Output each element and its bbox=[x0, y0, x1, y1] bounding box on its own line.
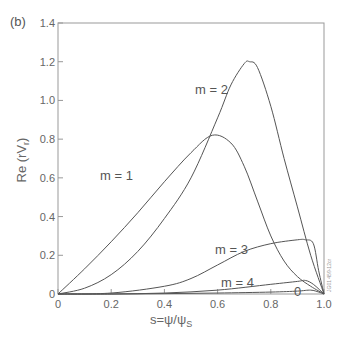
x-tick-label: 0.2 bbox=[104, 298, 119, 310]
y-tick-label: 1.2 bbox=[40, 56, 55, 68]
y-tick-label: 0.4 bbox=[40, 211, 55, 223]
label-m0: 0 bbox=[294, 284, 301, 299]
x-tick-label: 1.0 bbox=[316, 298, 331, 310]
y-tick-label: 1.0 bbox=[40, 94, 55, 106]
y-axis: 00.20.40.60.81.01.21.4 bbox=[40, 17, 63, 300]
chart-canvas: 00.20.40.60.81.01.21.4 00.20.40.60.81.0 … bbox=[0, 0, 347, 339]
y-tick-label: 0.8 bbox=[40, 133, 55, 145]
x-tick-label: 0.8 bbox=[263, 298, 278, 310]
x-tick-label: 0.4 bbox=[157, 298, 172, 310]
y-tick-label: 0.6 bbox=[40, 172, 55, 184]
panel-label: (b) bbox=[10, 14, 26, 29]
x-tick-label: 0.6 bbox=[210, 298, 225, 310]
label-m3: m = 3 bbox=[215, 242, 248, 257]
x-tick-label: 0 bbox=[55, 298, 61, 310]
curve-m3 bbox=[58, 239, 324, 294]
y-tick-label: 1.4 bbox=[40, 17, 55, 29]
label-m2: m = 2 bbox=[195, 82, 228, 97]
figure-id: JG01 459-12cr bbox=[326, 259, 332, 292]
x-axis-title: s=ψ/ψS bbox=[150, 312, 192, 329]
curves bbox=[58, 61, 324, 294]
y-axis-title: Re (rVr) bbox=[14, 138, 31, 183]
y-tick-label: 0.2 bbox=[40, 249, 55, 261]
curve-m2 bbox=[58, 61, 324, 294]
label-m4: m = 4 bbox=[221, 275, 254, 290]
label-m1: m = 1 bbox=[100, 168, 133, 183]
